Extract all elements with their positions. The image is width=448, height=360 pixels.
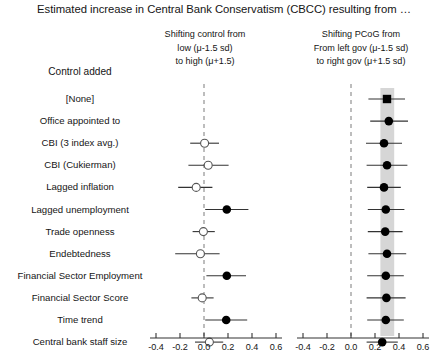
estimate-marker-open [201,139,209,147]
estimate-marker-open [204,161,212,169]
datapoint-left-5 [205,205,248,214]
estimate-marker-filled [385,117,394,126]
estimate-marker-filled [383,249,392,258]
estimate-marker-filled [222,316,231,325]
estimate-marker-filled [382,205,391,214]
estimate-marker-filled [382,294,391,303]
datapoint-right-8 [367,272,404,281]
coefficient-plot-figure: Estimated increase in Central Bank Conse… [0,0,448,360]
estimate-marker-filled [380,139,389,148]
datapoint-right-6 [368,227,403,236]
estimate-marker-filled [223,205,232,214]
datapoint-right-9 [367,294,406,303]
datapoint-right-4 [367,183,401,192]
axis-tick-label-right-5: 0.6 [408,342,438,352]
estimate-marker-open [192,183,200,191]
estimate-marker-open [198,294,206,302]
datapoint-left-8 [206,272,246,281]
estimate-marker-filled [223,272,232,281]
datapoint-right-3 [367,161,408,170]
plot-canvas [0,0,448,360]
estimate-marker-filled [382,316,391,325]
datapoint-left-2 [190,139,219,147]
datapoint-left-6 [193,228,215,236]
datapoint-right-2 [366,139,402,148]
estimate-marker-filled [382,272,391,281]
axis-tick-label-left-5: 0.6 [261,342,291,352]
datapoint-left-7 [175,250,219,258]
estimate-marker-filled [381,227,390,236]
datapoint-left-10 [205,316,247,325]
datapoint-right-1 [370,117,408,126]
datapoint-right-0 [368,95,405,103]
datapoint-right-7 [368,249,406,258]
estimate-marker-square [383,95,391,103]
datapoint-right-5 [368,205,405,214]
datapoint-left-4 [178,183,212,191]
estimate-marker-open [199,228,207,236]
estimate-marker-filled [383,161,392,170]
datapoint-left-3 [188,161,228,169]
datapoint-left-9 [191,294,213,302]
estimate-marker-open [196,250,204,258]
estimate-marker-filled [380,183,389,192]
datapoint-right-10 [367,316,404,325]
